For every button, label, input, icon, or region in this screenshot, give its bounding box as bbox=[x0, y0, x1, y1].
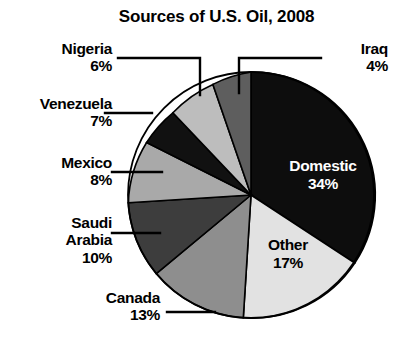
slice-label-saudi-arabia-value: 10% bbox=[8, 249, 112, 266]
slice-label-iraq: Iraq 4% bbox=[322, 40, 388, 75]
slice-label-saudi-arabia: Saudi Arabia 10% bbox=[8, 214, 112, 266]
slice-label-domestic-name: Domestic bbox=[277, 157, 369, 175]
slice-label-canada-name: Canada bbox=[20, 289, 160, 306]
slice-label-mexico-name: Mexico bbox=[8, 154, 112, 171]
slice-label-nigeria-value: 6% bbox=[8, 57, 112, 74]
slice-label-iraq-name: Iraq bbox=[322, 40, 388, 57]
slice-label-mexico: Mexico 8% bbox=[8, 154, 112, 189]
slice-label-iraq-value: 4% bbox=[322, 57, 388, 74]
slice-label-other: Other 17% bbox=[251, 236, 325, 272]
slice-label-saudi-arabia-name-line1: Saudi bbox=[8, 214, 112, 231]
slice-label-domestic: Domestic 34% bbox=[277, 157, 369, 193]
slice-label-other-value: 17% bbox=[251, 254, 325, 272]
pie-chart: Sources of U.S. Oil, 2008 Nigeria bbox=[0, 0, 393, 351]
slice-label-mexico-value: 8% bbox=[8, 171, 112, 188]
slice-label-nigeria-name: Nigeria bbox=[8, 40, 112, 57]
slice-label-venezuela: Venezuela 7% bbox=[0, 95, 112, 130]
slice-label-nigeria: Nigeria 6% bbox=[8, 40, 112, 75]
slice-label-venezuela-name: Venezuela bbox=[0, 95, 112, 112]
slice-label-saudi-arabia-name-line2: Arabia bbox=[8, 231, 112, 248]
slice-label-other-name: Other bbox=[251, 236, 325, 254]
slice-label-canada: Canada 13% bbox=[20, 289, 160, 324]
slice-label-canada-value: 13% bbox=[20, 306, 160, 323]
slice-label-venezuela-value: 7% bbox=[0, 112, 112, 129]
slice-label-domestic-value: 34% bbox=[277, 175, 369, 193]
